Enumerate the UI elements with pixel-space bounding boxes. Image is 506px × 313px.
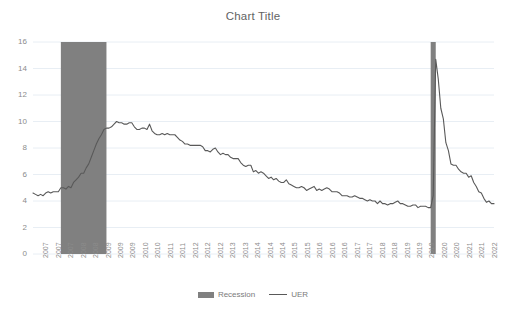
recession-swatch-icon [198, 292, 214, 298]
y-axis-label: 14 [5, 65, 27, 73]
recession-band [61, 42, 107, 254]
y-axis-label: 4 [5, 197, 27, 205]
legend-item-recession[interactable]: Recession [198, 290, 255, 299]
chart-canvas [0, 0, 506, 313]
plot-area: 0246810121416 20072007200720082008200920… [0, 0, 506, 313]
uer-line-swatch-icon [269, 294, 287, 295]
legend-label-recession: Recession [218, 290, 255, 299]
y-axis-label: 10 [5, 118, 27, 126]
y-axis-label: 6 [5, 171, 27, 179]
y-axis-label: 16 [5, 38, 27, 46]
chart-legend: Recession UER [0, 290, 506, 299]
y-axis-label: 8 [5, 144, 27, 152]
y-axis-label: 0 [5, 250, 27, 258]
legend-item-uer[interactable]: UER [269, 290, 308, 299]
legend-label-uer: UER [291, 290, 308, 299]
y-axis-label: 12 [5, 91, 27, 99]
y-axis-label: 2 [5, 224, 27, 232]
chart-container: Chart Title 0246810121416 20072007200720… [0, 0, 506, 313]
